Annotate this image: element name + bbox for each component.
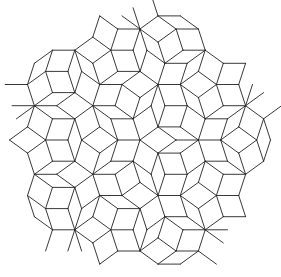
- rhombus-edges: [5, 0, 281, 264]
- tiling-svg: [0, 0, 281, 277]
- penrose-tiling-figure: Penrose rhombus tiling: [0, 0, 281, 277]
